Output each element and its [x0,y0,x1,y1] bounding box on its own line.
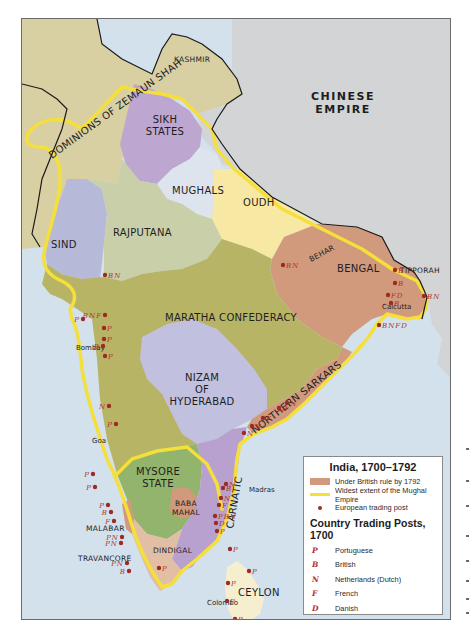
trading-post-dot [386,293,390,297]
page-edge-marks [466,440,472,620]
label-bengal: BENGAL [337,263,380,274]
trading-post-code: BNFD [381,322,408,330]
trading-post-dot [101,344,105,348]
trading-post: PN [104,540,123,548]
trading-post-dot [213,514,217,518]
trading-post-code: P [106,421,113,429]
trading-post-dot [106,503,110,507]
trading-post-dot [228,547,232,551]
label-nizam-line3: HYDERABAD [169,396,234,407]
mughal-extent-swatch [310,493,330,496]
trading-post-code: B [397,267,404,275]
post-code: P [312,546,326,555]
trading-post-code: P [230,580,237,588]
trading-post-code: B [93,343,100,351]
trading-post-code: PN [104,540,118,548]
label-tipporah: TIPPORAH [399,266,440,275]
trading-post-dot [103,313,107,317]
trading-post-code: BN [107,272,121,280]
trading-post-dot [107,404,111,408]
city-goa: Goa [92,437,106,445]
trading-post-code: P [251,568,258,576]
legend-label: British [335,560,356,569]
trading-post-code: B [119,568,126,576]
label-chinese-line1: CHINESE [311,90,375,103]
label-sikh-line1: SIKH [153,114,178,125]
label-sind: SIND [51,239,77,250]
trading-post-code: P [229,598,236,606]
edge-mark [466,560,469,562]
trading-post-dot [214,521,218,525]
trading-post-code: P [237,616,244,621]
trading-post-code: P [219,528,226,536]
label-dindigal: DINDIGAL [153,546,193,555]
trading-post-dot [226,581,230,585]
trading-post: BNFD [377,322,408,330]
trading-post-code: PN [110,560,124,568]
trading-post-dot [103,354,107,358]
edge-mark [466,535,469,537]
trading-post-code: BN [285,262,299,270]
trading-post-dot [102,337,106,341]
trading-post-dot [114,422,118,426]
trading-post-dot [277,406,281,410]
label-mysore-line2: STATE [142,478,174,489]
post-code: N [312,575,326,584]
trading-post-dot [127,569,131,573]
trading-post-dot [91,472,95,476]
label-kashmir: KASHMIR [174,55,210,64]
trading-post-code: BN [426,293,440,301]
label-ceylon: CEYLON [238,587,280,598]
trading-post: B [119,568,131,576]
legend-label: Netherlands (Dutch) [335,575,401,584]
trading-post-dot [221,486,225,490]
trading-post-dot [225,599,229,603]
trading-post-dot [217,503,221,507]
trading-post-code: B [101,509,108,517]
map-frame: DOMINIONS OF ZEMAUN SHAH KASHMIR SIKH ST… [21,18,451,620]
legend-post-dutch: N Netherlands (Dutch) [310,572,436,587]
trading-post-code: P [85,484,92,492]
legend-title: India, 1700–1792 [310,461,436,473]
trading-post-code: N [98,403,106,411]
edge-mark [466,480,469,482]
trading-post-code: N [246,430,254,438]
trading-post-code: P [73,316,80,324]
legend-label: French [335,589,358,598]
legend-label: European trading post [335,503,408,512]
label-mughals: MUGHALS [172,185,224,196]
trading-post-dot [389,301,393,305]
trading-post-dot [422,294,426,298]
trading-post-dot [219,496,223,500]
label-sikh-line2: STATES [146,126,184,137]
trading-post-code: P [232,546,239,554]
label-baba-line1: BABA [175,499,197,508]
label-oudh: OUDH [243,197,275,208]
trading-post-code: N [289,400,297,408]
label-rajputana: RAJPUTANA [113,227,172,238]
trading-post-dot-icon [318,506,322,510]
trading-post-dot [119,541,123,545]
edge-mark [466,448,469,450]
trading-post-dot [120,535,124,539]
trading-post-dot [247,569,251,573]
trading-post-dot [393,268,397,272]
legend-post-portuguese: P Portuguese [310,543,436,558]
trading-post-code: P [106,336,113,344]
trading-post-code: P [106,325,113,333]
label-nizam-line2: OF [195,384,209,395]
trading-post-dot [109,510,113,514]
trading-post-code: B [393,300,400,308]
trading-post-code: F [104,518,111,526]
city-madras: Madras [249,486,275,494]
trading-post: P [85,484,97,492]
legend-label: Portuguese [335,546,373,555]
legend-subtitle: Country Trading Posts, 1700 [310,517,436,541]
label-mysore-line1: MYSORE [136,466,180,477]
trading-post-code: FD [390,292,403,300]
trading-post-dot [157,566,161,570]
trading-post-code: P [107,353,114,361]
trading-post-dot [261,416,265,420]
trading-post-dot [215,529,219,533]
trading-post-dot [377,323,381,327]
